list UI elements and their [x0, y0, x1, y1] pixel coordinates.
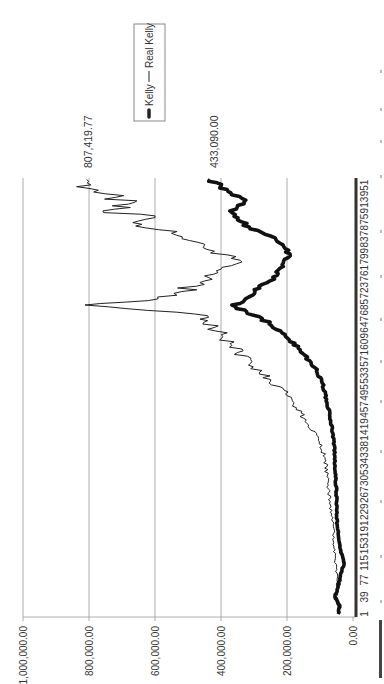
- y-tick-label: 200,000.00: [282, 626, 293, 676]
- y-tick-label: 0.00: [348, 626, 359, 646]
- x-tick-label: 229: [359, 503, 370, 520]
- x-tick-label: 457: [359, 401, 370, 418]
- series-real-kelly-line: [77, 180, 339, 615]
- legend-real-kelly-label: Real Kelly: [144, 23, 155, 68]
- y-tick-label: 800,000.00: [84, 626, 95, 676]
- x-tick-label: 191: [359, 520, 370, 537]
- x-tick-label: 1: [359, 611, 370, 617]
- x-tick-label: 419: [359, 418, 370, 435]
- x-tick-label: 723: [359, 281, 370, 298]
- annotation-real-kelly-final: 807,419.77: [82, 115, 94, 168]
- x-tick-label: 647: [359, 316, 370, 333]
- x-tick-label: 913: [359, 196, 370, 213]
- x-tick-label: 495: [359, 384, 370, 401]
- x-tick-label: 39: [359, 591, 370, 603]
- x-tick-label: 153: [359, 537, 370, 554]
- x-tick-label: 343: [359, 452, 370, 469]
- y-tick-label: 400,000.00: [216, 626, 227, 676]
- y-tick-label: 1,000,000.00: [18, 626, 29, 684]
- x-tick-label: 799: [359, 247, 370, 264]
- y-axis-tick-labels: 0.00200,000.00400,000.00600,000.00800,00…: [18, 626, 359, 684]
- legend-kelly-label: Kelly: [144, 84, 155, 106]
- y-tick-label: 600,000.00: [150, 626, 161, 676]
- x-tick-label: 533: [359, 367, 370, 384]
- gridlines: [23, 178, 356, 621]
- series-kelly-line: [209, 180, 344, 615]
- x-tick-label: 305: [359, 469, 370, 486]
- x-tick-label: 761: [359, 264, 370, 281]
- x-tick-label: 951: [359, 179, 370, 196]
- annotation-kelly-final: 433,090.00: [208, 115, 220, 168]
- x-tick-label: 267: [359, 486, 370, 503]
- x-tick-label: 115: [359, 554, 370, 570]
- x-tick-label: 837: [359, 230, 370, 247]
- x-axis-tick-labels: 1397711515319122926730534338141945749553…: [359, 179, 370, 617]
- x-tick-label: 571: [359, 350, 370, 367]
- chart-canvas: 0.00200,000.00400,000.00600,000.00800,00…: [0, 0, 384, 684]
- cropped-caption-fragment: [374, 0, 384, 684]
- x-tick-label: 609: [359, 333, 370, 350]
- x-tick-label: 381: [359, 435, 370, 452]
- x-tick-label: 77: [359, 574, 370, 586]
- legend: Kelly Real Kelly: [134, 23, 165, 121]
- x-tick-label: 875: [359, 213, 370, 230]
- x-tick-label: 685: [359, 299, 370, 316]
